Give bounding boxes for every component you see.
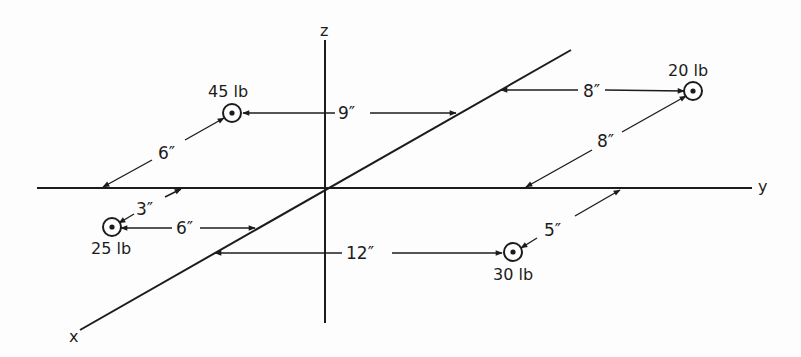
dimension-label: 8″ (583, 81, 600, 101)
mass-25lb: 25 lb (91, 218, 131, 258)
mass-label: 20 lb (668, 61, 708, 80)
dimension-arrow-up-icon (165, 189, 181, 197)
mass-center-dot-icon (229, 110, 234, 115)
dimension-25lb-diagonal: 3″ (119, 189, 181, 223)
dimension-arrow-up-icon (622, 96, 686, 132)
dimension-arrow-down-icon (103, 160, 152, 187)
y-axis-label: y (758, 177, 767, 196)
mass-label: 25 lb (91, 239, 131, 258)
force-diagram: x y z 9″ 6″ 8″ 8″ (0, 0, 801, 357)
mass-center-dot-icon (690, 88, 695, 93)
dimension-45lb-horizontal: 9″ (243, 103, 456, 123)
dimension-arrow-down-icon (119, 214, 134, 223)
dimension-label: 12″ (346, 243, 374, 263)
dimension-arrow-up-icon (185, 118, 224, 140)
z-axis-label: z (320, 21, 328, 40)
dimension-label: 9″ (338, 103, 355, 123)
dimension-label: 3″ (136, 199, 153, 219)
mass-45lb: 45 lb (208, 82, 248, 122)
axes: x y z (37, 21, 767, 346)
dimension-20lb-horizontal: 8″ (501, 81, 684, 101)
mass-20lb: 20 lb (668, 61, 708, 100)
dimension-arrow-down-icon (526, 150, 592, 187)
dimension-arrow-up-icon (575, 190, 620, 216)
dimension-30lb-diagonal: 5″ (521, 190, 620, 248)
dimension-20lb-diagonal: 8″ (526, 96, 686, 187)
dimension-arrow-down-icon (521, 238, 537, 248)
mass-center-dot-icon (510, 249, 515, 254)
dimension-25lb-horizontal: 6″ (121, 218, 255, 238)
mass-label: 45 lb (208, 82, 248, 101)
mass-label: 30 lb (493, 265, 533, 284)
dimension-label: 6″ (176, 218, 193, 238)
diagram-canvas: x y z 9″ 6″ 8″ 8″ (0, 0, 801, 357)
dimension-30lb-horizontal: 12″ (215, 243, 502, 263)
mass-30lb: 30 lb (493, 243, 533, 284)
x-axis-label: x (69, 327, 78, 346)
dimension-label: 6″ (158, 143, 175, 163)
dimension-45lb-diagonal: 6″ (103, 118, 224, 187)
mass-center-dot-icon (109, 224, 114, 229)
dimension-label: 8″ (597, 131, 614, 151)
dimension-label: 5″ (544, 220, 561, 240)
dimension-arrow-right-icon (605, 90, 684, 91)
